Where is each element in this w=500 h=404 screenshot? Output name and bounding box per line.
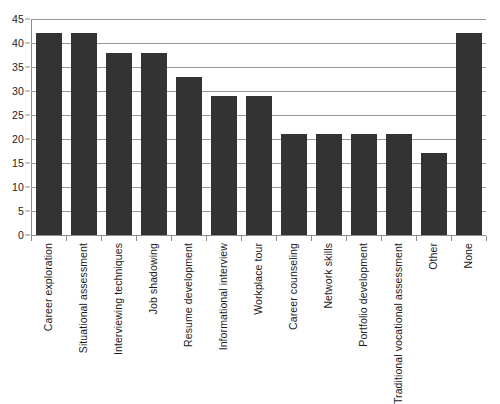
x-tick-label: Interviewing techniques — [113, 243, 124, 355]
x-tick-mark — [171, 236, 172, 241]
y-tick-mark — [25, 139, 30, 140]
x-tick-label: Resume development — [183, 243, 194, 347]
x-tick-label: Situational assessment — [78, 243, 89, 353]
x-tick-mark — [346, 236, 347, 241]
x-tick-mark — [136, 236, 137, 241]
x-tick-mark — [381, 236, 382, 241]
y-tick-label-25: 25 — [12, 109, 24, 121]
x-axis-labels: Career explorationSituational assessment… — [31, 243, 486, 401]
bars-layer — [31, 19, 486, 235]
bar — [36, 33, 62, 235]
bar — [316, 134, 342, 235]
x-tick-label: Traditional vocational assessment — [393, 243, 404, 404]
y-tick-mark — [25, 211, 30, 212]
y-tick-mark — [25, 187, 30, 188]
y-tick-label-30: 30 — [12, 85, 24, 97]
x-tick-mark — [31, 236, 32, 241]
y-tick-mark — [25, 235, 30, 236]
y-tick-mark — [25, 19, 30, 20]
y-tick-label-20: 20 — [12, 133, 24, 145]
x-tick-label: Career exploration — [43, 243, 54, 331]
y-axis: 051015202530354045 — [0, 0, 30, 401]
x-tick-label: Network skills — [323, 243, 334, 309]
y-tick-label-35: 35 — [12, 61, 24, 73]
x-tick-label: Informational interview — [218, 243, 229, 350]
bar — [386, 134, 412, 235]
bar — [421, 153, 447, 235]
bar — [176, 77, 202, 235]
x-axis-ticks — [31, 236, 486, 242]
x-tick-mark — [241, 236, 242, 241]
x-tick-label: None — [463, 243, 474, 269]
x-tick-mark — [276, 236, 277, 241]
x-tick-mark — [101, 236, 102, 241]
x-tick-mark — [416, 236, 417, 241]
y-tick-label-40: 40 — [12, 37, 24, 49]
y-tick-mark — [25, 91, 30, 92]
y-tick-mark — [25, 67, 30, 68]
x-tick-mark — [206, 236, 207, 241]
y-tick-label-5: 5 — [18, 205, 24, 217]
bar — [211, 96, 237, 235]
x-tick-label: Job shadowing — [148, 243, 159, 314]
y-tick-label-15: 15 — [12, 157, 24, 169]
bar — [456, 33, 482, 235]
x-tick-label: Portfolio development — [358, 243, 369, 347]
y-tick-label-10: 10 — [12, 181, 24, 193]
bar — [71, 33, 97, 235]
y-tick-mark — [25, 163, 30, 164]
x-tick-mark — [311, 236, 312, 241]
bar — [246, 96, 272, 235]
x-tick-mark — [486, 236, 487, 241]
y-tick-label-0: 0 — [18, 229, 24, 241]
x-tick-mark — [451, 236, 452, 241]
bar — [106, 53, 132, 235]
bar — [351, 134, 377, 235]
y-tick-mark — [25, 43, 30, 44]
y-tick-label-45: 45 — [12, 13, 24, 25]
bar — [281, 134, 307, 235]
x-tick-label: Other — [428, 243, 439, 270]
x-tick-mark — [66, 236, 67, 241]
x-tick-label: Career counseling — [288, 243, 299, 330]
x-tick-label: Workplace tour — [253, 243, 264, 315]
y-tick-mark — [25, 115, 30, 116]
bar — [141, 53, 167, 235]
